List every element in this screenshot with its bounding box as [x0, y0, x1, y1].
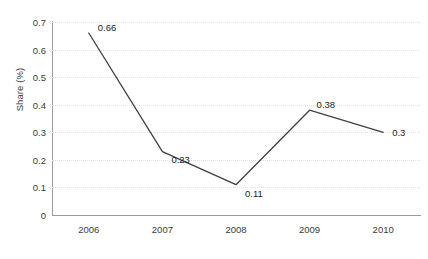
x-axis-tick-label: 2009 [299, 224, 320, 235]
data-label: 0.11 [245, 188, 263, 199]
gridline [52, 132, 420, 133]
gridline [52, 160, 420, 161]
y-axis-tick-label: 0.2 [22, 154, 46, 165]
data-label: 0.38 [317, 99, 336, 110]
y-axis-tick-label: 0.5 [22, 72, 46, 83]
y-axis-tick-label: 0.6 [22, 44, 46, 55]
data-label: 0.23 [171, 154, 190, 165]
plot-area [52, 22, 420, 215]
gridline [52, 77, 420, 78]
y-axis-tick-label: 0.1 [22, 182, 46, 193]
x-axis-tick-label: 2006 [78, 224, 99, 235]
y-axis-tick-label: 0.4 [22, 99, 46, 110]
y-axis-tick-label: 0.7 [22, 17, 46, 28]
x-axis-line [52, 215, 421, 216]
x-axis-tick-label: 2010 [373, 224, 394, 235]
line-chart: Share (%) 00.10.20.30.40.50.60.7 2006200… [0, 0, 428, 259]
gridline [52, 50, 420, 51]
gridline [52, 187, 420, 188]
gridline [52, 105, 420, 106]
x-axis-tick-label: 2007 [152, 224, 173, 235]
x-axis-tick-label: 2008 [225, 224, 246, 235]
y-axis-tick-label: 0 [22, 210, 46, 221]
data-label: 0.3 [392, 127, 405, 138]
y-axis-tick-label: 0.3 [22, 127, 46, 138]
y-axis-tick-labels: 00.10.20.30.40.50.60.7 [22, 0, 46, 259]
data-label: 0.66 [98, 22, 117, 33]
